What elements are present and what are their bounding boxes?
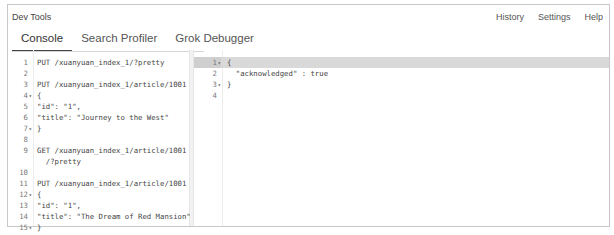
- top-links: History Settings Help: [496, 12, 603, 22]
- code-line[interactable]: 6"title": "Journey to the West": [8, 112, 189, 123]
- code-line[interactable]: 11PUT /xuanyuan_index_1/article/1001: [8, 178, 189, 189]
- code-text: {: [37, 189, 41, 200]
- code-line[interactable]: 13"id": "1",: [8, 200, 189, 211]
- code-line[interactable]: 15}: [8, 222, 189, 233]
- code-line[interactable]: 5"id": "1",: [8, 101, 189, 112]
- line-number: 13: [8, 200, 32, 211]
- code-text: GET /xuanyuan_index_1/article/1001: [37, 145, 186, 156]
- line-number: 9: [8, 145, 32, 156]
- tab-bar: Console Search Profiler Grok Debugger: [12, 27, 263, 51]
- line-number: 8: [8, 134, 32, 145]
- code-line[interactable]: /?pretty: [8, 156, 189, 167]
- line-number: 11: [8, 178, 32, 189]
- request-editor[interactable]: 1PUT /xuanyuan_index_1/?pretty23PUT /xua…: [8, 50, 190, 226]
- tab-search-profiler[interactable]: Search Profiler: [72, 27, 166, 51]
- line-number: 16: [8, 233, 32, 235]
- code-text: "id": "1",: [37, 200, 81, 211]
- code-line[interactable]: 2: [8, 68, 189, 79]
- code-line[interactable]: 7}: [8, 123, 189, 134]
- line-number: 4: [194, 90, 221, 101]
- line-number-fold-toggle[interactable]: 4: [8, 90, 32, 101]
- app-title: Dev Tools: [12, 12, 51, 22]
- code-line[interactable]: 12{: [8, 189, 189, 200]
- code-text: PUT /xuanyuan_index_1/article/1001: [37, 79, 186, 90]
- code-text: "title": "Journey to the West": [37, 112, 169, 123]
- dev-tools-panel: Dev Tools History Settings Help Console …: [7, 4, 610, 227]
- line-number: 2: [8, 68, 32, 79]
- line-number-fold-toggle[interactable]: 3: [194, 79, 221, 90]
- code-line[interactable]: 3PUT /xuanyuan_index_1/article/1001: [8, 79, 189, 90]
- code-line[interactable]: 8: [8, 134, 189, 145]
- line-number: 10: [8, 167, 32, 178]
- line-number-fold-toggle[interactable]: 1: [194, 57, 221, 68]
- tab-grok-debugger[interactable]: Grok Debugger: [166, 27, 263, 51]
- line-number: 14: [8, 211, 32, 222]
- tab-console[interactable]: Console: [12, 27, 72, 51]
- line-number: 2: [194, 68, 221, 79]
- code-line[interactable]: 4{: [8, 90, 189, 101]
- history-link[interactable]: History: [496, 12, 524, 22]
- help-link[interactable]: Help: [584, 12, 603, 22]
- code-line[interactable]: 16: [8, 233, 189, 235]
- line-number: 6: [8, 112, 32, 123]
- code-line[interactable]: 1{: [194, 57, 609, 68]
- code-line[interactable]: 9GET /xuanyuan_index_1/article/1001: [8, 145, 189, 156]
- code-text: /?pretty: [37, 156, 81, 167]
- code-text: PUT /xuanyuan_index_1/article/1001: [37, 178, 186, 189]
- code-text: {: [37, 90, 41, 101]
- code-text: "title": "The Dream of Red Mansion": [37, 211, 191, 222]
- code-line[interactable]: 3}: [194, 79, 609, 90]
- console-editors: 1PUT /xuanyuan_index_1/?pretty23PUT /xua…: [8, 50, 609, 226]
- code-text: "acknowledged" : true: [227, 68, 328, 79]
- code-text: }: [227, 79, 231, 90]
- code-line[interactable]: 1PUT /xuanyuan_index_1/?pretty: [8, 57, 189, 68]
- response-editor[interactable]: 1{2 "acknowledged" : true3}4: [193, 50, 609, 226]
- settings-link[interactable]: Settings: [538, 12, 571, 22]
- code-line[interactable]: 14"title": "The Dream of Red Mansion": [8, 211, 189, 222]
- line-number: 3: [8, 79, 32, 90]
- code-text: PUT /xuanyuan_index_1/?pretty: [37, 57, 164, 68]
- line-number: 5: [8, 101, 32, 112]
- code-text: "id": "1",: [37, 101, 81, 112]
- code-line[interactable]: 2 "acknowledged" : true: [194, 68, 609, 79]
- code-line[interactable]: 10: [8, 167, 189, 178]
- code-text: }: [37, 123, 41, 134]
- code-text: }: [37, 222, 41, 233]
- line-number-fold-toggle[interactable]: 12: [8, 189, 32, 200]
- line-number: 1: [8, 57, 32, 68]
- code-line[interactable]: 4: [194, 90, 609, 101]
- line-number-fold-toggle[interactable]: 15: [8, 222, 32, 233]
- line-number-fold-toggle[interactable]: 7: [8, 123, 32, 134]
- code-text: {: [227, 57, 231, 68]
